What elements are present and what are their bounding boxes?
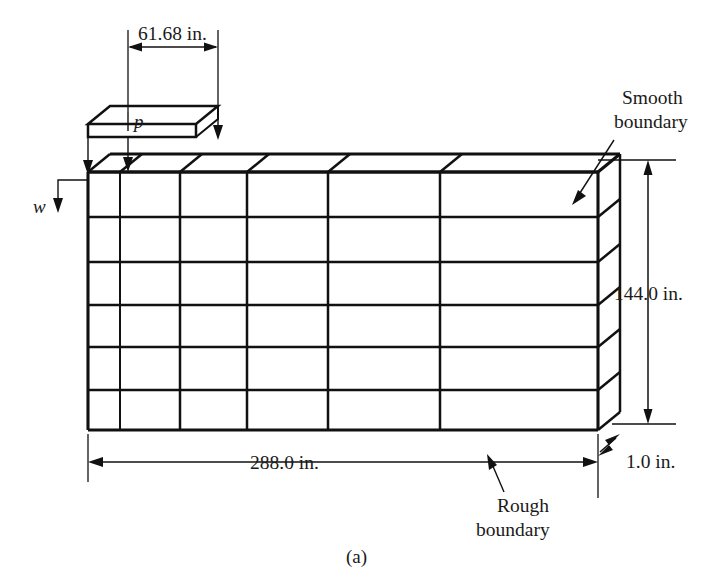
- block-top-face: [88, 154, 620, 172]
- label-rough-boundary-line2: boundary: [476, 519, 550, 540]
- label-top-width: 61.68 in.: [138, 23, 207, 44]
- pressure-patch: [88, 106, 218, 137]
- figure-container: 61.68 in. p w Smooth boundary 144.0 in. …: [0, 0, 722, 586]
- dimension-width: [88, 434, 598, 498]
- label-smooth-boundary-line2: boundary: [614, 111, 688, 132]
- diagram-canvas: 61.68 in. p w Smooth boundary 144.0 in. …: [0, 0, 722, 586]
- label-rough-boundary-line1: Rough: [497, 495, 549, 516]
- rough-boundary-leader: [487, 454, 504, 492]
- label-width: 288.0 in.: [250, 452, 319, 473]
- label-deflection: w: [33, 196, 46, 217]
- label-pressure: p: [132, 111, 144, 132]
- dimension-thickness: [598, 434, 620, 456]
- deflection-leader: [53, 180, 88, 213]
- figure-caption: (a): [346, 546, 367, 568]
- label-height: 144.0 in.: [614, 283, 683, 304]
- front-face-mesh: [88, 172, 598, 430]
- label-thickness: 1.0 in.: [626, 451, 675, 472]
- label-smooth-boundary-line1: Smooth: [622, 87, 683, 108]
